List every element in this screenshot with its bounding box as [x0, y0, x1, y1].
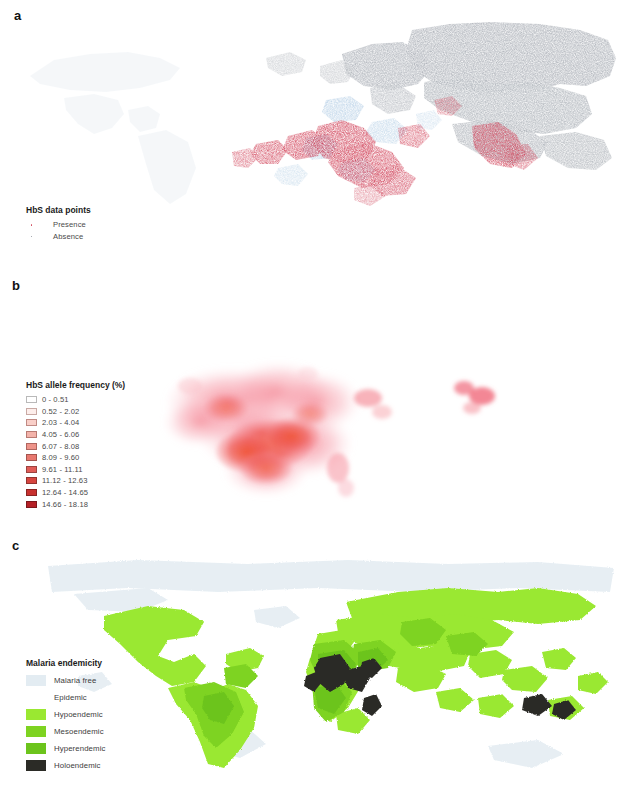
legend-item-endemic-4: Hyperendemic [26, 740, 105, 757]
endemic-swatch-mesoendemic [26, 726, 46, 737]
legend-label-endemic-2: Hypoendemic [54, 710, 103, 719]
legend-item-freq-5: 8.09 - 9.60 [26, 452, 125, 464]
panel-a: a [0, 0, 625, 270]
legend-item-freq-0: 0 - 0.51 [26, 394, 125, 406]
presence-dot-icon [26, 224, 37, 226]
panel-a-basemap [30, 52, 196, 204]
legend-label-endemic-4: Hyperendemic [54, 744, 105, 753]
panel-b: b [0, 270, 625, 530]
absence-dot-icon [26, 236, 37, 238]
legend-item-freq-2: 2.03 - 4.04 [26, 417, 125, 429]
legend-label-freq-8: 12.64 - 14.65 [42, 488, 88, 497]
panel-a-map-svg [20, 18, 620, 208]
legend-item-freq-7: 11.12 - 12.63 [26, 475, 125, 487]
legend-item-freq-3: 4.05 - 6.06 [26, 429, 125, 441]
freq-swatch-4 [26, 443, 37, 450]
legend-item-freq-1: 0.52 - 2.02 [26, 406, 125, 418]
legend-label-freq-6: 9.61 - 11.11 [42, 465, 83, 474]
legend-label-freq-9: 14.66 - 18.18 [42, 500, 88, 509]
legend-label-freq-5: 8.09 - 9.60 [42, 453, 79, 462]
endemic-swatch-malaria-free [26, 675, 46, 686]
panel-c: c [0, 530, 625, 794]
legend-item-endemic-1: Epidemic [26, 689, 105, 706]
endemic-swatch-hypoendemic [26, 709, 46, 720]
legend-label-freq-0: 0 - 0.51 [42, 395, 69, 404]
legend-item-endemic-2: Hypoendemic [26, 706, 105, 723]
figure-container: a [0, 0, 625, 794]
endemic-swatch-hyperendemic [26, 743, 46, 754]
legend-item-freq-4: 6.07 - 8.08 [26, 440, 125, 452]
freq-swatch-3 [26, 431, 37, 438]
freq-swatch-2 [26, 419, 37, 426]
panel-c-map-svg [18, 558, 620, 788]
legend-label-presence: Presence [53, 220, 86, 229]
freq-swatch-0 [26, 396, 37, 403]
legend-label-freq-3: 4.05 - 6.06 [42, 430, 79, 439]
panel-c-legend: Malaria endemicity Malaria free Epidemic… [26, 658, 105, 774]
freq-swatch-5 [26, 454, 37, 461]
legend-item-absence: Absence [26, 231, 91, 243]
panel-b-legend-title: HbS allele frequency (%) [26, 380, 125, 390]
freq-swatch-6 [26, 466, 37, 473]
legend-item-freq-8: 12.64 - 14.65 [26, 487, 125, 499]
legend-label-freq-4: 6.07 - 8.08 [42, 442, 79, 451]
panel-c-letter: c [12, 538, 19, 553]
legend-item-endemic-5: Holoendemic [26, 757, 105, 774]
endemic-swatch-epidemic [26, 692, 46, 703]
panel-c-legend-title: Malaria endemicity [26, 658, 105, 668]
legend-label-endemic-3: Mesoendemic [54, 727, 104, 736]
legend-item-presence: Presence [26, 219, 91, 231]
legend-item-endemic-0: Malaria free [26, 672, 105, 689]
legend-label-endemic-1: Epidemic [54, 693, 87, 702]
freq-swatch-9 [26, 501, 37, 508]
panel-c-map [18, 558, 620, 788]
panel-b-legend: HbS allele frequency (%) 0 - 0.51 0.52 -… [26, 380, 125, 510]
legend-label-freq-1: 0.52 - 2.02 [42, 407, 79, 416]
panel-a-legend: HbS data points Presence Absence [26, 205, 91, 242]
freq-swatch-1 [26, 408, 37, 415]
endemic-swatch-holoendemic [26, 760, 46, 771]
panel-b-letter: b [12, 278, 20, 293]
legend-item-freq-6: 9.61 - 11.11 [26, 464, 125, 476]
legend-label-absence: Absence [53, 232, 83, 241]
legend-label-endemic-5: Holoendemic [54, 761, 101, 770]
freq-swatch-7 [26, 477, 37, 484]
legend-label-freq-7: 11.12 - 12.63 [42, 476, 88, 485]
legend-label-freq-2: 2.03 - 4.04 [42, 418, 79, 427]
freq-swatch-8 [26, 489, 37, 496]
legend-item-endemic-3: Mesoendemic [26, 723, 105, 740]
panel-a-map [20, 18, 620, 208]
legend-label-endemic-0: Malaria free [54, 676, 96, 685]
panel-a-legend-title: HbS data points [26, 205, 91, 215]
legend-item-freq-9: 14.66 - 18.18 [26, 498, 125, 510]
